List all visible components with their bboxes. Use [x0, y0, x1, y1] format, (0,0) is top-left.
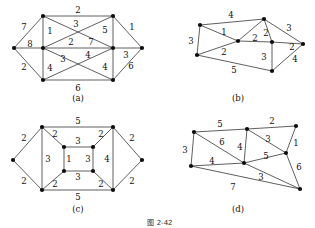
graph-edge — [272, 42, 303, 44]
node-d-bottom-right — [298, 187, 302, 191]
graph-edge — [13, 160, 42, 190]
graph-edge — [244, 129, 247, 163]
edge-weight-label: 3 — [188, 36, 193, 46]
edge-weight-label: 5 — [263, 151, 268, 161]
weighted-graph-figure: 27135182723344466(a)43122322345(b)522223… — [0, 0, 315, 228]
edge-weight-label: 2 — [129, 133, 134, 143]
edge-weight-label: 2 — [98, 179, 103, 189]
edge-weight-label: 3 — [75, 136, 80, 146]
graph-edge — [272, 44, 303, 71]
node-c-left — [11, 158, 15, 162]
edge-weight-label: 3 — [261, 52, 266, 62]
node-d-top-mid — [245, 127, 249, 131]
edge-weight-label: 3 — [75, 172, 80, 182]
figure-caption: 图 2-42 — [147, 219, 172, 227]
node-d-center — [242, 161, 246, 165]
edge-weight-label: 5 — [75, 192, 80, 202]
edge-weight-label: 7 — [230, 182, 235, 192]
node-c-top-right — [111, 125, 115, 129]
edge-weight-label: 2 — [129, 176, 134, 186]
panel-caption-d: (d) — [232, 204, 244, 214]
edge-weight-label: 3 — [123, 50, 128, 60]
edge-weight-label: 3 — [45, 154, 50, 164]
edge-weight-label: 5 — [102, 25, 107, 35]
edge-weight-label: 3 — [85, 154, 90, 164]
node-c-top-left — [40, 125, 44, 129]
edge-weight-label: 2 — [289, 42, 294, 52]
edge-weight-label: 7 — [21, 22, 26, 32]
node-d-left — [189, 164, 193, 168]
edge-weight-label: 3 — [60, 54, 65, 64]
node-b-left-top — [198, 23, 202, 27]
node-a-mid-right — [111, 46, 115, 50]
edge-weight-label: 1 — [47, 26, 52, 36]
node-c-inner-top-right — [91, 145, 95, 149]
node-a-mid-left — [41, 46, 45, 50]
edge-weight-label: 2 — [52, 129, 57, 139]
node-c-inner-bot-left — [62, 169, 66, 173]
edge-weight-label: 2 — [52, 179, 57, 189]
graph-panel-d: 523643145637(d) — [182, 116, 302, 215]
edge-weight-label: 2 — [21, 176, 26, 186]
edge-weight-label: 1 — [66, 154, 71, 164]
node-d-top-right — [294, 124, 298, 128]
node-b-right — [301, 42, 305, 46]
edge-weight-label: 4 — [102, 62, 107, 72]
edge-weight-label: 5 — [217, 119, 222, 129]
edge-weight-label: 2 — [21, 62, 26, 72]
edge-weight-label: 2 — [221, 47, 226, 57]
edge-weight-label: 4 — [209, 156, 214, 166]
graph-panel-c: 5222233134322225(c) — [11, 116, 144, 215]
edge-weight-label: 4 — [85, 50, 90, 60]
node-a-top-left — [41, 14, 45, 18]
graph-edge — [197, 25, 200, 55]
edge-weight-label: 6 — [296, 162, 301, 172]
edge-weight-label: 4 — [228, 10, 233, 20]
graph-edge — [113, 127, 142, 160]
panel-caption-c: (c) — [72, 204, 83, 214]
node-d-mid-right — [284, 151, 288, 155]
edge-weight-label: 7 — [88, 37, 93, 47]
graph-edge — [200, 25, 238, 41]
node-b-bottom — [270, 69, 274, 73]
graph-edge — [247, 126, 296, 129]
edge-weight-label: 2 — [269, 116, 274, 126]
edge-weight-label: 2 — [252, 33, 257, 43]
graph-edge — [13, 127, 42, 160]
edge-weight-label: 5 — [75, 116, 80, 126]
graph-edge — [200, 19, 264, 25]
node-a-bottom-right — [111, 78, 115, 82]
graph-panel-a: 27135182723344466(a) — [12, 5, 144, 104]
edge-weight-label: 4 — [237, 142, 242, 152]
node-c-bottom-left — [40, 188, 44, 192]
edge-weight-label: 1 — [293, 138, 298, 148]
graph-edge — [191, 163, 244, 166]
graph-edge — [194, 129, 247, 132]
edge-weight-label: 4 — [47, 63, 52, 73]
edge-weight-label: 5 — [231, 65, 236, 75]
graph-edge — [238, 19, 264, 41]
graph-edge — [264, 19, 303, 44]
node-c-right — [140, 158, 144, 162]
edge-weight-label: 4 — [292, 54, 297, 64]
edge-weight-label: 3 — [265, 134, 270, 144]
edge-weight-label: 3 — [286, 23, 291, 33]
edge-weight-label: 6 — [219, 137, 224, 147]
edge-weight-label: 1 — [221, 27, 226, 37]
graph-panel-b: 43122322345(b) — [188, 10, 305, 104]
graph-edge — [14, 48, 43, 80]
edge-weight-label: 6 — [128, 61, 133, 71]
node-c-inner-top-left — [62, 145, 66, 149]
edge-weight-label: 2 — [68, 37, 73, 47]
node-a-top-right — [111, 14, 115, 18]
node-b-mid-right — [270, 40, 274, 44]
graph-edge — [191, 132, 194, 166]
edge-weight-label: 1 — [129, 22, 134, 32]
edge-weight-label: 3 — [73, 19, 78, 29]
node-d-top-left — [192, 130, 196, 134]
node-b-left-bottom — [195, 53, 199, 57]
edge-weight-label: 2 — [98, 129, 103, 139]
edge-weight-label: 8 — [27, 39, 32, 49]
node-c-bottom-right — [111, 188, 115, 192]
edge-weight-label: 6 — [75, 83, 80, 93]
